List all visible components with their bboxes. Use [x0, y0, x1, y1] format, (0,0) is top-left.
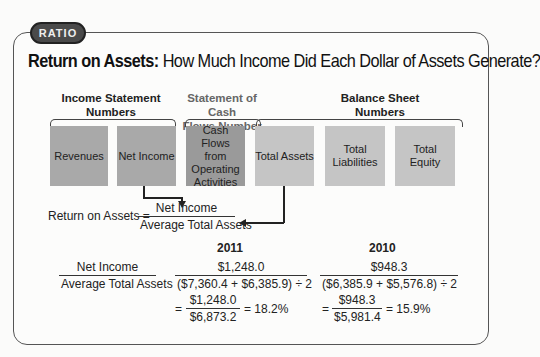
equals-sign: = — [322, 302, 329, 316]
ratio-panel — [13, 32, 489, 345]
equals-sign: = — [175, 302, 182, 316]
result-2011-denominator: $6,873.2 — [186, 308, 240, 324]
box-total-equity: Total Equity — [395, 126, 455, 186]
box-revenues: Revenues — [50, 126, 108, 186]
header-line: Income Statement — [50, 91, 172, 105]
result-2010-fraction: $948.3 $5,981.4 — [332, 293, 382, 324]
header-line: Statement of Cash — [181, 91, 263, 119]
header-line: Balance Sheet — [300, 91, 460, 105]
box-cash-flows: Cash Flows from Operating Activities — [186, 126, 245, 186]
calc-2010-numerator: $948.3 — [320, 260, 458, 275]
year-2011: 2011 — [217, 241, 243, 255]
header-line: Numbers — [300, 105, 460, 119]
connector-total-assets — [283, 186, 285, 223]
result-2010-denominator: $5,981.4 — [332, 308, 382, 324]
calc-2011-denominator: ($7,360.4 + $6,385.9) ÷ 2 — [175, 275, 307, 291]
calc-2010-denominator: ($6,385.9 + $5,576.8) ÷ 2 — [320, 275, 458, 291]
label-numerator: Net Income — [59, 260, 156, 275]
year-2010: 2010 — [369, 241, 396, 255]
box-net-income: Net Income — [117, 126, 176, 186]
calc-2011-numerator: $1,248.0 — [175, 260, 307, 275]
page-title: Return on Assets: How Much Income Did Ea… — [28, 50, 540, 72]
balance-sheet-header: Balance Sheet Numbers — [300, 91, 460, 119]
result-2010-numerator: $948.3 — [332, 293, 382, 308]
label-fraction: Net Income Average Total Assets — [59, 260, 156, 291]
result-2010: = 15.9% — [386, 302, 430, 316]
title-bold: Return on Assets: — [28, 50, 159, 71]
result-2011-fraction: $1,248.0 $6,873.2 — [186, 293, 240, 324]
box-total-liabilities: Total Liabilities — [325, 126, 385, 186]
result-2011-numerator: $1,248.0 — [186, 293, 240, 308]
result-2011: = 18.2% — [244, 302, 288, 316]
formula-numerator: Net Income — [138, 201, 235, 216]
calc-2011-fraction: $1,248.0 ($7,360.4 + $6,385.9) ÷ 2 — [175, 260, 307, 291]
formula-fraction: Net Income Average Total Assets — [138, 201, 235, 232]
formula-lhs: Return on Assets = — [48, 209, 150, 223]
calc-2010-fraction: $948.3 ($6,385.9 + $5,576.8) ÷ 2 — [320, 260, 458, 291]
ratio-badge: RATIO — [30, 22, 86, 44]
connector-net-income-h — [143, 197, 182, 199]
header-line: Numbers — [50, 105, 172, 119]
title-rest: How Much Income Did Each Dollar of Asset… — [159, 50, 540, 71]
connector-total-assets-h — [246, 222, 284, 224]
box-total-assets: Total Assets — [255, 126, 314, 186]
income-statement-header: Income Statement Numbers — [50, 91, 172, 119]
formula-denominator: Average Total Assets — [138, 216, 235, 232]
label-denominator: Average Total Assets — [59, 275, 156, 291]
